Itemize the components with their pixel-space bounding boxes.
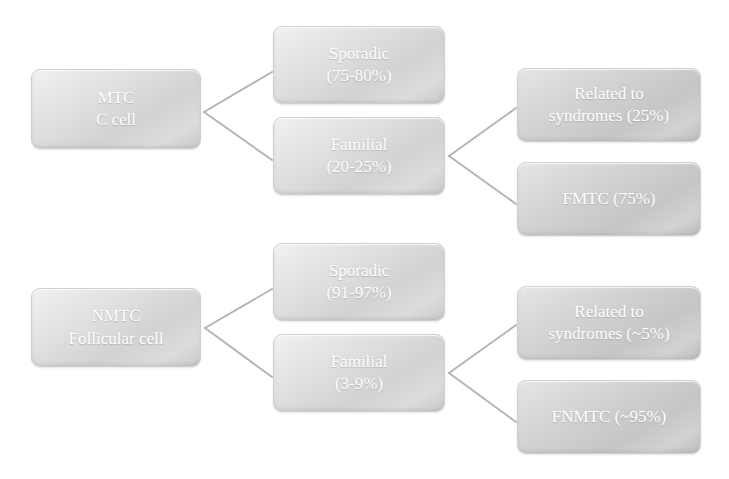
connector-mtc-familial-to-syndromes [449,108,516,156]
node-nmtc-sporadic-line1: Sporadic [329,260,389,282]
node-nmtc-familial[interactable]: Familial (3-9%) [273,334,445,412]
connector-nmtc-familial-to-fnmtc [449,373,516,422]
node-nmtc-sporadic-line2: (91-97%) [326,282,391,304]
connector-mtc-to-familial [204,112,272,160]
node-mtc-syndromes-line1: Related to [574,83,643,105]
node-nmtc-related-to-syndromes[interactable]: Related to syndromes (~5%) [517,286,701,360]
node-nmtc-line2: Follicular cell [69,328,164,350]
node-mtc-line2: C cell [96,109,136,131]
node-mtc-syndromes-line2: syndromes (25%) [549,105,669,127]
node-nmtc-familial-line2: (3-9%) [335,373,383,395]
diagram-canvas: MTC C cell Sporadic (75-80%) Familial (2… [0,0,729,479]
node-mtc[interactable]: MTC C cell [31,69,201,149]
node-fmtc[interactable]: FMTC (75%) [517,162,701,236]
node-mtc-familial-line1: Familial [331,134,388,156]
node-mtc-familial-line2: (20-25%) [326,156,391,178]
node-nmtc-familial-line1: Familial [331,351,388,373]
node-nmtc[interactable]: NMTC Follicular cell [31,288,201,367]
connector-nmtc-familial-to-syndromes [449,325,516,373]
node-mtc-related-to-syndromes[interactable]: Related to syndromes (25%) [517,68,701,142]
node-mtc-sporadic-line1: Sporadic [329,43,389,65]
node-nmtc-syndromes-line2: syndromes (~5%) [548,323,669,345]
connector-nmtc-to-sporadic [205,289,272,328]
node-mtc-sporadic[interactable]: Sporadic (75-80%) [273,26,445,104]
node-fnmtc-line1: FNMTC (~95%) [552,406,667,428]
connector-nmtc-to-familial [205,328,272,377]
node-mtc-line1: MTC [98,87,135,109]
node-nmtc-sporadic[interactable]: Sporadic (91-97%) [273,243,445,321]
node-mtc-familial[interactable]: Familial (20-25%) [273,117,445,195]
node-nmtc-line1: NMTC [91,305,140,327]
node-mtc-sporadic-line2: (75-80%) [326,65,391,87]
connector-mtc-to-sporadic [204,72,272,112]
connector-mtc-familial-to-fmtc [449,156,516,204]
node-fmtc-line1: FMTC (75%) [562,188,655,210]
node-fnmtc[interactable]: FNMTC (~95%) [517,380,701,454]
node-nmtc-syndromes-line1: Related to [574,301,643,323]
